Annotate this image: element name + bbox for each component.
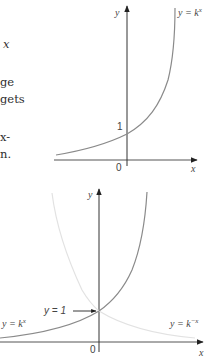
curve-label-k-x: y = kx: [1, 317, 27, 329]
y-intercept-label: 1: [117, 121, 123, 132]
graph-bottom: y x 0 y = 1 y = kx y = k−x: [0, 189, 204, 358]
figure-canvas: y x 0 1 y = kx y x 0 y = 1 y = kx y = k−…: [0, 0, 208, 362]
x-axis-label: x: [190, 163, 196, 174]
y-axis-label: y: [114, 7, 120, 18]
curve-label-k-neg-x: y = k−x: [169, 317, 199, 329]
origin-label: 0: [90, 344, 96, 355]
y-axis-label: y: [87, 189, 93, 200]
intersection-label: y = 1: [43, 305, 66, 316]
origin-label: 0: [116, 162, 122, 173]
curve-label-k-x: y = kx: [177, 6, 203, 18]
graph-top: y x 0 1 y = kx: [54, 6, 203, 174]
curve-k-neg-x: [52, 193, 195, 338]
x-axis-label: x: [198, 347, 204, 358]
curve-k-x: [56, 8, 175, 155]
